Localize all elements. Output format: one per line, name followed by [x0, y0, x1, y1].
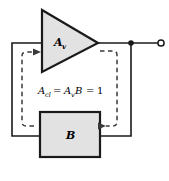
- arrow-into-feedback-block-icon: [98, 123, 106, 130]
- equation-lhs-base: A: [37, 85, 45, 96]
- arrow-into-amplifier-icon: [33, 49, 41, 56]
- equation-lhs-subscript: cl: [45, 91, 51, 99]
- wire-feedback-right: [100, 43, 131, 136]
- equation-result: 1: [97, 85, 103, 96]
- amplifier-triangle: [42, 10, 98, 72]
- equation-equals-first: =: [53, 85, 61, 96]
- equation-equals-second: =: [86, 85, 94, 96]
- output-terminal-circle[interactable]: [158, 40, 164, 46]
- amplifier-symbol: A v: [42, 10, 98, 72]
- output-junction-dot: [128, 40, 134, 46]
- feedback-block-symbol: B: [40, 112, 100, 157]
- feedback-block-label: B: [65, 129, 75, 142]
- equation-rhs-factor: B: [74, 85, 82, 96]
- closed-loop-gain-equation: A cl = A v B = 1: [37, 85, 103, 99]
- block-diagram-figure: A v B A cl = A v B: [0, 0, 169, 181]
- dashed-segment-left: [22, 52, 34, 126]
- equation-rhs-base: A: [63, 85, 71, 96]
